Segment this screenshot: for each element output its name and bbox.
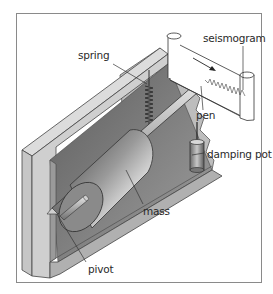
label-pen: pen [196, 110, 215, 121]
label-spring: spring [78, 50, 110, 61]
label-pivot: pivot [88, 264, 113, 275]
seismometer-illustration [0, 0, 273, 294]
label-damping-pot: damping pot [207, 149, 272, 160]
label-seismogram: seismogram [203, 33, 266, 44]
label-mass: mass [143, 206, 170, 217]
seismometer-diagram: spring seismogram pen damping pot mass p… [0, 0, 273, 294]
